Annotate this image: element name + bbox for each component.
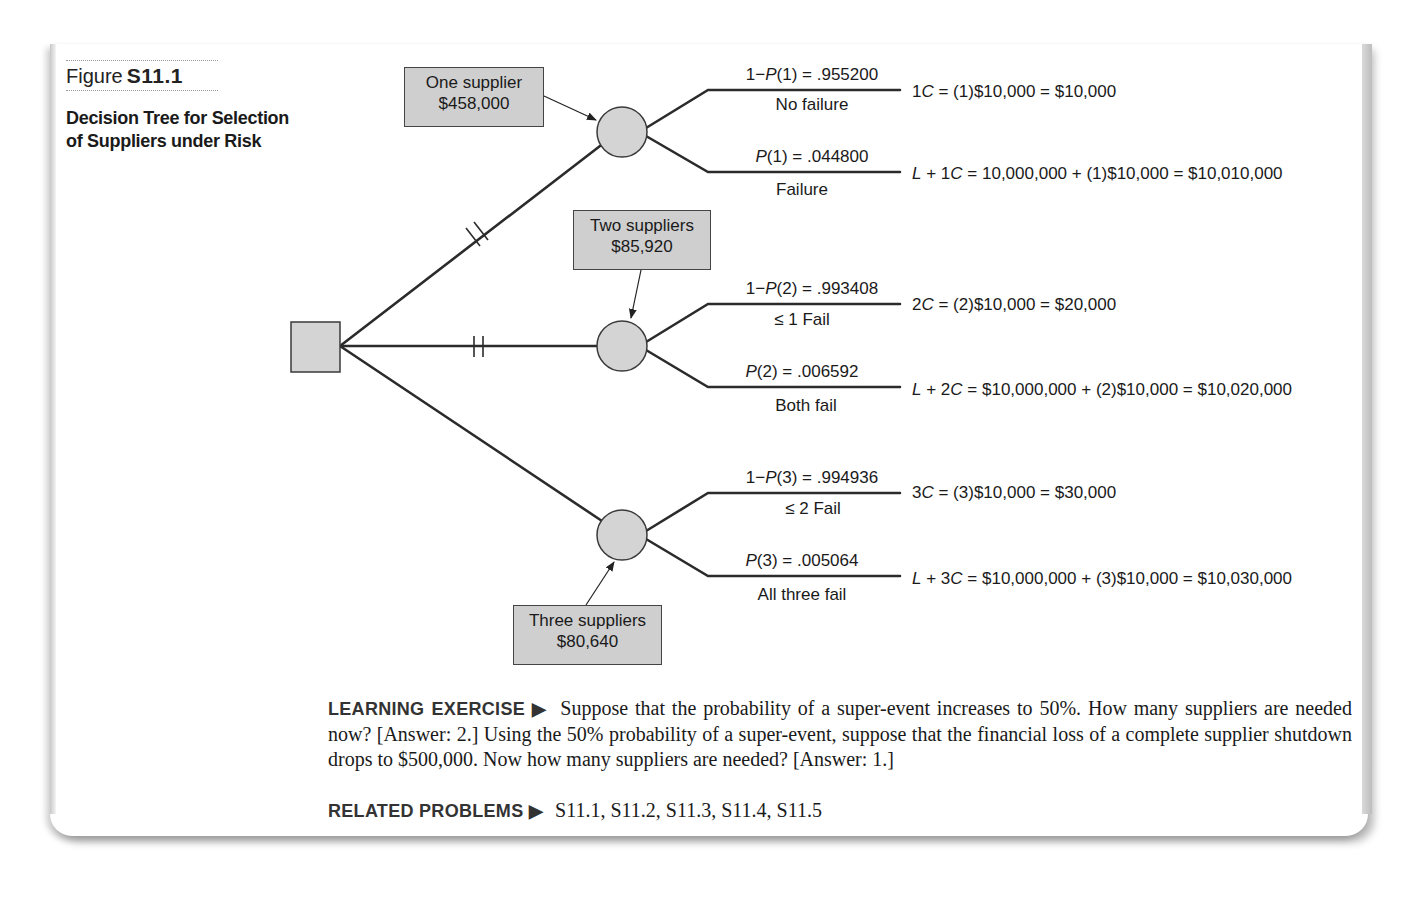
payoff-label: L + 1C = 10,000,000 + (1)$10,000 = $10,0… <box>912 164 1283 184</box>
option-expected-cost: $85,920 <box>574 236 710 257</box>
option-box-one-supplier: One supplier $458,000 <box>404 67 544 127</box>
chance-node-3 <box>597 510 647 560</box>
decision-node-square <box>291 322 340 372</box>
payoff-label: L + 2C = $10,000,000 + (2)$10,000 = $10,… <box>912 380 1292 400</box>
option-expected-cost: $458,000 <box>405 93 543 114</box>
probability-label: 1−P(3) = .994936 <box>717 468 907 488</box>
chance-node-1 <box>597 107 647 157</box>
event-label: Failure <box>707 180 897 200</box>
option-box-three-suppliers: Three suppliers $80,640 <box>513 605 662 665</box>
option-name: Two suppliers <box>574 215 710 236</box>
event-label: No failure <box>717 95 907 115</box>
event-label: All three fail <box>707 585 897 605</box>
callout-arrow-one <box>544 96 596 120</box>
probability-label: 1−P(2) = .993408 <box>717 279 907 299</box>
related-problems-list: S11.1, S11.2, S11.3, S11.4, S11.5 <box>555 799 822 821</box>
related-problems-heading: RELATED PROBLEMS ▶ <box>328 801 543 821</box>
option-name: One supplier <box>405 72 543 93</box>
learning-exercise-heading: LEARNING EXERCISE ▶ <box>328 699 548 719</box>
option-name: Three suppliers <box>514 610 661 631</box>
payoff-label: 3C = (3)$10,000 = $30,000 <box>912 483 1116 503</box>
option-expected-cost: $80,640 <box>514 631 661 652</box>
event-label: ≤ 2 Fail <box>718 499 908 519</box>
probability-label: 1−P(1) = .955200 <box>717 65 907 85</box>
probability-label: P(1) = .044800 <box>717 147 907 167</box>
probability-label: P(3) = .005064 <box>707 551 897 571</box>
chance-node-2 <box>597 321 647 371</box>
branch-one-supplier <box>340 146 600 346</box>
probability-label: P(2) = .006592 <box>707 362 897 382</box>
payoff-label: 1C = (1)$10,000 = $10,000 <box>912 82 1116 102</box>
option-box-two-suppliers: Two suppliers $85,920 <box>573 210 711 270</box>
callout-arrow-three <box>586 562 614 605</box>
related-problems: RELATED PROBLEMS ▶S11.1, S11.2, S11.3, S… <box>328 798 822 824</box>
learning-exercise: LEARNING EXERCISE ▶Suppose that the prob… <box>328 696 1352 772</box>
payoff-label: L + 3C = $10,000,000 + (3)$10,000 = $10,… <box>912 569 1292 589</box>
event-label: ≤ 1 Fail <box>707 310 897 330</box>
payoff-label: 2C = (2)$10,000 = $20,000 <box>912 295 1116 315</box>
event-label: Both fail <box>711 396 901 416</box>
prune-marks <box>466 222 488 357</box>
callout-arrow-two <box>631 270 641 318</box>
branch-three-suppliers <box>340 346 602 521</box>
